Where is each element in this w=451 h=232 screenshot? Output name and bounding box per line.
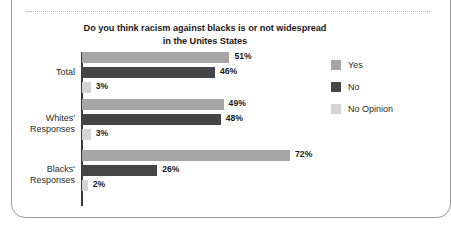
bar-no-opinion[interactable] (82, 82, 91, 93)
bar-value-label: 2% (93, 179, 105, 189)
bar-row: 3% (82, 129, 312, 140)
legend-swatch-yes-icon (331, 60, 341, 70)
chart-legend: Yes No No Opinion (331, 54, 393, 120)
chart-title-line-2: in the Unites States (60, 35, 350, 48)
bar-yes[interactable] (82, 52, 229, 63)
bar-no[interactable] (82, 114, 221, 125)
bar-yes[interactable] (82, 150, 290, 161)
bar-value-label: 51% (234, 51, 251, 61)
bar-group: Total51%46%3% (82, 52, 312, 97)
bar-group: Blacks' Responses72%26%2% (82, 150, 312, 195)
category-label: Total (5, 67, 75, 78)
bar-value-label: 46% (220, 66, 237, 76)
bar-no-opinion[interactable] (82, 129, 91, 140)
bar-no[interactable] (82, 67, 215, 78)
bar-row: 49% (82, 99, 312, 110)
bar-row: 46% (82, 67, 312, 78)
bar-row: 72% (82, 150, 312, 161)
category-label: Blacks' Responses (5, 164, 75, 185)
bar-row: 26% (82, 165, 312, 176)
bar-value-label: 72% (295, 149, 312, 159)
category-label: Whites' Responses (5, 113, 75, 134)
bar-value-label: 48% (226, 113, 243, 123)
chart-title-line-1: Do you think racism against blacks is or… (60, 22, 350, 35)
legend-label-yes: Yes (348, 60, 363, 70)
bar-row: 2% (82, 180, 312, 191)
bar-group: Whites' Responses49%48%3% (82, 99, 312, 144)
legend-label-no: No (348, 82, 360, 92)
bar-value-label: 3% (96, 81, 108, 91)
legend-item-no-opinion[interactable]: No Opinion (331, 98, 393, 120)
legend-swatch-no-icon (331, 82, 341, 92)
bar-value-label: 3% (96, 128, 108, 138)
bar-value-label: 26% (162, 164, 179, 174)
bar-row: 3% (82, 82, 312, 93)
bar-value-label: 49% (229, 98, 246, 108)
bar-no[interactable] (82, 165, 157, 176)
legend-label-no-opinion: No Opinion (348, 104, 393, 114)
bar-yes[interactable] (82, 99, 224, 110)
legend-item-yes[interactable]: Yes (331, 54, 393, 76)
legend-swatch-no-opinion-icon (331, 104, 341, 114)
bar-row: 48% (82, 114, 312, 125)
chart-title: Do you think racism against blacks is or… (60, 22, 350, 47)
bar-no-opinion[interactable] (82, 180, 88, 191)
legend-item-no[interactable]: No (331, 76, 393, 98)
bar-row: 51% (82, 52, 312, 63)
plot-area: Total51%46%3%Whites' Responses49%48%3%Bl… (82, 52, 312, 206)
